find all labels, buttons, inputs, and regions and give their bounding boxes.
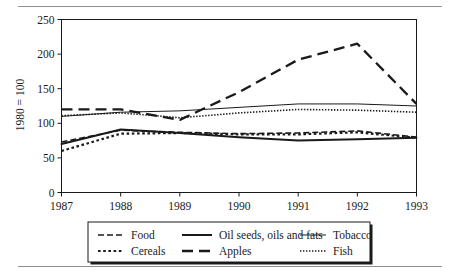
x-tick-label: 1990 [228, 200, 251, 212]
x-tick-label: 1992 [346, 200, 369, 212]
legend-item-label: Food [131, 229, 155, 241]
series-line-cereals [62, 132, 417, 151]
x-tick-label: 1989 [168, 200, 191, 212]
series-line-apples [62, 44, 417, 120]
x-axis-ticks: 1987198819891990199119921993 [50, 193, 428, 212]
series-line-fish [62, 109, 417, 117]
y-tick-label: 150 [37, 83, 55, 95]
figure-container: 1980 = 100 050100150200250 1987198819891… [0, 0, 455, 275]
plot-frame [62, 20, 417, 193]
top-horizontal-rule [18, 6, 442, 7]
legend-item-label: Fish [333, 245, 353, 257]
y-axis-ticks: 050100150200250 [37, 14, 61, 199]
plot-border [62, 20, 417, 193]
bottom-horizontal-rule [18, 266, 442, 267]
x-tick-label: 1991 [287, 200, 310, 212]
legend[interactable]: FoodOil seeds, oils and fatsTobaccoCerea… [88, 222, 373, 265]
legend-item-label: Apples [219, 245, 252, 258]
series-lines [62, 44, 417, 151]
x-tick-label: 1988 [109, 200, 132, 212]
y-tick-label: 0 [49, 187, 55, 199]
y-tick-label: 100 [37, 117, 55, 129]
y-tick-label: 200 [37, 48, 55, 60]
legend-item-label: Tobacco [333, 229, 372, 241]
series-line-oil-seeds-oils-and-fats [62, 130, 417, 145]
line-chart: 1980 = 100 050100150200250 1987198819891… [0, 0, 455, 275]
y-tick-label: 250 [37, 14, 55, 26]
legend-item-label: Cereals [131, 245, 166, 257]
x-tick-label: 1987 [50, 200, 73, 212]
y-axis-title: 1980 = 100 [14, 79, 26, 132]
y-tick-label: 50 [43, 152, 55, 164]
x-tick-label: 1993 [405, 200, 428, 212]
